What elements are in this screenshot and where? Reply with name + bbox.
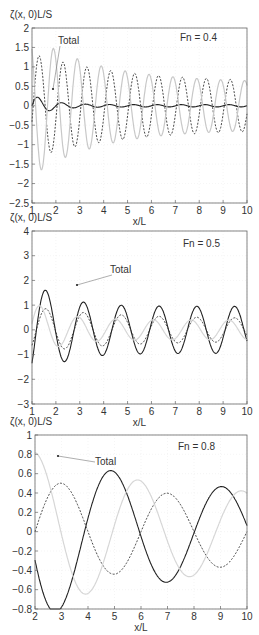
y-tick-label: −1.5 [9,159,29,170]
x-tick-label: 2 [32,611,38,622]
x-tick-label: 8 [191,611,197,622]
x-tick-label: 5 [125,205,131,216]
arrow-head [76,284,78,286]
x-tick-label: 6 [138,611,144,622]
y-tick-label: 2 [23,275,29,286]
chart-figure: 1234567891021.510.50−0.5−1−1.5−2−2.5ζ(x,… [0,0,259,635]
x-tick-label: 3 [77,205,83,216]
y-tick-label: 0.2 [18,507,32,518]
x-tick-label: 5 [112,611,118,622]
x-tick-label: 8 [196,406,202,417]
arrow-head [57,455,59,457]
x-tick-label: 6 [149,205,155,216]
x-tick-label: 4 [101,406,107,417]
y-tick-label: 0 [23,100,29,111]
y-axis-label: ζ(x, 0)L/S [10,9,53,21]
chart-panel-2: 1234567891043210−1−2−3ζ(x, 0)L/Sx/LFn = … [10,212,253,428]
y-tick-label: 1 [23,300,29,311]
x-tick-label: 10 [241,611,253,622]
series-component-b [32,49,247,170]
x-tick-label: 3 [59,611,65,622]
plot-area [32,28,247,203]
x-tick-label: 9 [220,406,226,417]
y-tick-label: −0.8 [12,604,32,615]
y-tick-label: 1.5 [15,42,29,53]
chart-panel-3: 234567891010.80.60.40.20−0.2−0.4−0.6−0.8… [10,416,253,633]
series-total [32,290,247,363]
y-tick-label: −2 [18,374,30,385]
y-tick-label: −1 [18,139,30,150]
y-tick-label: 2 [23,23,29,34]
series-component-b [32,306,247,347]
y-tick-label: −2 [18,178,30,189]
chart-panel-1: 1234567891021.510.50−0.5−1−1.5−2−2.5ζ(x,… [9,9,253,227]
froude-number-annotation: Fn = 0.5 [183,238,220,249]
y-tick-label: 0.5 [15,81,29,92]
y-tick-label: 0.4 [18,488,32,499]
series-component-a [32,309,247,349]
y-tick-label: 0 [23,324,29,335]
froude-number-annotation: Fn = 0.8 [178,441,215,452]
x-tick-label: 4 [101,205,107,216]
y-tick-label: −3 [18,399,30,410]
total-label: Total [110,264,131,275]
y-tick-label: −1 [18,349,30,360]
y-tick-label: 0.8 [18,449,32,460]
total-arrow [77,275,112,285]
plot-area [32,231,247,404]
x-tick-label: 7 [173,406,179,417]
y-tick-label: 0.6 [18,468,32,479]
y-tick-label: −0.2 [12,546,32,557]
x-tick-label: 10 [241,406,253,417]
y-tick-label: 4 [23,226,29,237]
total-label: Total [58,35,79,46]
x-tick-label: 7 [165,611,171,622]
x-tick-label: 4 [85,611,91,622]
y-tick-label: 1 [23,61,29,72]
x-tick-label: 6 [149,406,155,417]
y-axis-label: ζ(x, 0)L/S [10,416,53,428]
y-tick-label: −0.6 [12,584,32,595]
x-tick-label: 2 [53,205,59,216]
y-tick-label: −0.5 [9,120,29,131]
x-axis-label: x/L [134,622,148,633]
x-tick-label: 9 [218,611,224,622]
froude-number-annotation: Fn = 0.4 [180,32,217,43]
x-tick-label: 9 [220,205,226,216]
y-tick-label: −2.5 [9,198,29,209]
y-tick-label: 0 [26,526,32,537]
y-axis-label: ζ(x, 0)L/S [10,212,53,224]
x-tick-label: 8 [196,205,202,216]
x-tick-label: 5 [125,406,131,417]
arrow-head [52,88,54,90]
y-tick-label: −0.4 [12,565,32,576]
x-tick-label: 7 [173,205,179,216]
x-tick-label: 3 [77,406,83,417]
x-tick-label: 2 [53,406,59,417]
y-tick-label: 1 [26,430,32,441]
y-tick-label: 3 [23,250,29,261]
x-tick-label: 10 [241,205,253,216]
total-label: Total [95,456,116,467]
total-arrow [58,456,95,462]
x-axis-label: x/L [133,417,147,428]
x-axis-label: x/L [133,216,147,227]
